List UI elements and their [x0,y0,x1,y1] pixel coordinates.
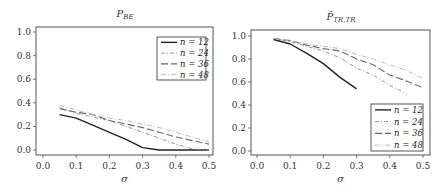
x-tick-label: 0.5 [416,161,431,171]
chart-title: P̂TR,TR [326,11,357,24]
x-tick-label: 0.1 [283,161,297,171]
x-tick-label: 0.4 [169,161,184,171]
legend-label: n = 12 [394,105,423,115]
x-tick-label: 0.2 [102,161,116,171]
y-tick-label: 0.6 [17,74,32,84]
chart-title-subscript: BE [122,13,133,21]
x-tick-label: 0.1 [69,161,83,171]
x-tick-label: 0.0 [250,161,265,171]
figure: PBE0.00.10.20.30.40.50.00.20.40.60.81.0σ… [0,0,447,192]
y-tick-label: 0.0 [232,146,247,156]
y-tick-label: 0.8 [232,54,247,64]
x-axis-label: σ [337,173,345,184]
y-tick-label: 1.0 [232,31,247,41]
legend-label: n = 24 [180,48,209,58]
x-tick-label: 0.3 [135,161,150,171]
x-tick-label: 0.3 [349,161,364,171]
y-tick-label: 0.8 [17,51,32,61]
y-tick-label: 0.0 [17,145,32,155]
y-tick-label: 1.0 [17,27,32,37]
legend-label: n = 36 [180,59,209,69]
legend-label: n = 12 [180,37,209,47]
legend-label: n = 24 [394,117,423,127]
x-axis-label: σ [121,173,129,184]
chart-panel-ptrtr: P̂TR,TR0.00.10.20.30.40.50.00.20.40.60.8… [232,11,431,184]
y-tick-label: 0.2 [17,121,31,131]
legend: n = 12n = 24n = 36n = 48 [157,37,209,80]
chart-panel-pbe: PBE0.00.10.20.30.40.50.00.20.40.60.81.0σ… [17,8,217,184]
x-tick-label: 0.5 [202,161,217,171]
x-tick-label: 0.4 [383,161,398,171]
x-tick-label: 0.0 [36,161,51,171]
legend-label: n = 48 [180,70,209,80]
y-tick-label: 0.4 [17,98,32,108]
chart-title: PBE [116,8,134,21]
legend-label: n = 48 [394,140,423,150]
legend: n = 12n = 24n = 36n = 48 [371,104,423,151]
y-tick-label: 0.6 [232,77,247,87]
y-tick-label: 0.2 [232,123,246,133]
chart-title-subscript: TR,TR [333,16,356,24]
legend-label: n = 36 [394,128,423,138]
x-tick-label: 0.2 [316,161,330,171]
y-tick-label: 0.4 [232,100,247,110]
